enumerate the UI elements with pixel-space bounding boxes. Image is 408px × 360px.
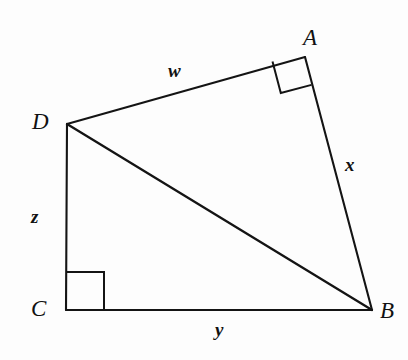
- vertex-label-A: A: [303, 26, 317, 49]
- geometry-figure: A B C D w x y z: [0, 0, 408, 360]
- side-label-y: y: [215, 320, 223, 339]
- edge-DB-diagonal: [67, 124, 372, 310]
- vertex-label-C: C: [31, 297, 46, 320]
- edge-DC: [66, 124, 67, 310]
- side-label-x: x: [345, 155, 355, 174]
- side-label-w: w: [168, 61, 181, 80]
- side-label-z: z: [31, 207, 38, 226]
- right-angle-mark-C: [67, 272, 104, 310]
- geometry-canvas: [0, 0, 408, 360]
- right-angle-mark-A: [273, 62, 312, 94]
- edge-AB: [305, 57, 372, 310]
- edge-DA: [67, 57, 305, 124]
- vertex-label-B: B: [380, 299, 394, 322]
- vertex-label-D: D: [32, 110, 49, 133]
